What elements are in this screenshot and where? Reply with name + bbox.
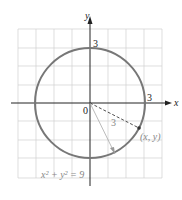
x-axis-arrow-icon — [165, 101, 172, 106]
origin-label: 0 — [83, 105, 88, 116]
x-tick-label: 3 — [147, 92, 152, 103]
point-label: (x, y) — [140, 131, 161, 143]
point-marker — [137, 126, 141, 130]
x-axis-label: x — [173, 97, 179, 108]
circle-diagram: x y 0 3 3 3 (x, y) x² + y² = 9 — [0, 0, 182, 200]
equation-label: x² + y² = 9 — [40, 169, 84, 180]
y-axis-label: y — [84, 10, 90, 21]
radius-line-secondary — [90, 103, 115, 154]
radius-label: 3 — [111, 117, 116, 128]
y-tick-label: 3 — [93, 38, 98, 49]
